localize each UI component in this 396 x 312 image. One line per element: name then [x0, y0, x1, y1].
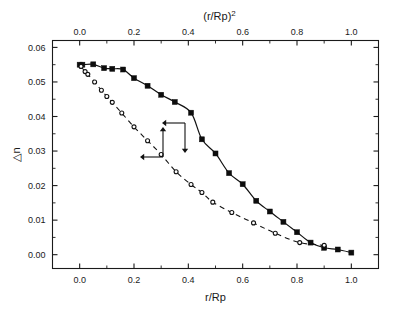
data-point-square: [199, 137, 204, 142]
data-point-circle: [252, 221, 256, 225]
data-point-square: [91, 62, 96, 67]
data-point-square: [102, 66, 107, 71]
data-point-circle: [273, 231, 277, 235]
axis-pointer-up-arrowhead: [160, 127, 166, 131]
y-axis-tick-label: 0.06: [28, 43, 46, 53]
data-point-circle: [86, 72, 90, 76]
axis-pointer-down-arrowhead: [182, 149, 188, 153]
y-axis-tick-label: 0.04: [28, 112, 46, 122]
top-x-axis-tick-label: 0.0: [73, 27, 86, 37]
x-axis-tick-label: 0.8: [291, 275, 304, 285]
data-point-square: [132, 76, 137, 81]
x-axis-tick-label: 0.6: [236, 275, 249, 285]
x-axis-tick-label: 0.0: [73, 275, 86, 285]
y-axis-title: △n: [10, 147, 22, 161]
series-line-open-circles: [81, 66, 324, 245]
data-series: [77, 62, 354, 255]
top-x-axis-tick-label: 1.0: [345, 27, 358, 37]
data-point-square: [281, 219, 286, 224]
data-point-square: [213, 151, 218, 156]
y-axis-tick-label: 0.03: [28, 146, 46, 156]
data-point-square: [267, 209, 272, 214]
data-point-square: [189, 110, 194, 115]
data-point-circle: [146, 139, 150, 143]
axis-tick-labels: 0.00.20.40.60.81.0r/Rp0.00.20.40.60.81.0…: [10, 9, 358, 303]
data-point-square: [121, 67, 126, 72]
series-filled-squares: [77, 62, 354, 255]
data-point-circle: [174, 170, 178, 174]
data-point-square: [159, 92, 164, 97]
data-point-circle: [230, 211, 234, 215]
x-axis-tick-label: 0.4: [182, 275, 195, 285]
data-point-circle: [200, 191, 204, 195]
series-open-circles: [79, 64, 326, 247]
axis-pointer-left-arrowhead: [140, 154, 144, 160]
y-axis-tick-label: 0.05: [28, 77, 46, 87]
data-point-circle: [110, 100, 114, 104]
data-point-square: [227, 171, 232, 176]
top-x-axis-tick-label: 0.4: [182, 27, 195, 37]
x-axis-title: r/Rp: [205, 291, 226, 303]
data-point-square: [254, 198, 259, 203]
top-x-axis-tick-label: 0.6: [236, 27, 249, 37]
x-axis-tick-label: 1.0: [345, 275, 358, 285]
data-point-square: [172, 99, 177, 104]
series-line-filled-squares: [80, 64, 352, 252]
data-point-circle: [132, 125, 136, 129]
data-point-circle: [79, 64, 83, 68]
data-point-circle: [189, 183, 193, 187]
data-point-square: [240, 182, 245, 187]
data-point-square: [295, 230, 300, 235]
data-point-circle: [99, 88, 103, 92]
data-point-square: [110, 66, 115, 71]
top-x-axis-title: (r/Rp)2: [203, 9, 236, 22]
data-point-circle: [211, 200, 215, 204]
data-point-circle: [298, 241, 302, 245]
data-point-square: [145, 83, 150, 88]
data-point-circle: [105, 94, 109, 98]
top-x-axis-tick-label: 0.8: [291, 27, 304, 37]
y-axis-tick-label: 0.02: [28, 181, 46, 191]
chart-canvas: 0.00.20.40.60.81.0r/Rp0.00.20.40.60.81.0…: [0, 0, 396, 312]
chart-figure: 0.00.20.40.60.81.0r/Rp0.00.20.40.60.81.0…: [0, 0, 396, 312]
axis-pointer-left-arrowhead: [162, 120, 166, 126]
data-point-square: [335, 247, 340, 252]
data-point-circle: [93, 80, 97, 84]
data-point-square: [349, 250, 354, 255]
x-axis-tick-label: 0.2: [128, 275, 141, 285]
axis-pointer-filled-squares: [166, 123, 185, 150]
data-point-circle: [322, 243, 326, 247]
y-axis-tick-label: 0.01: [28, 215, 46, 225]
data-point-circle: [120, 111, 124, 115]
y-axis-tick-label: 0.00: [28, 250, 46, 260]
top-x-axis-tick-label: 0.2: [128, 27, 141, 37]
